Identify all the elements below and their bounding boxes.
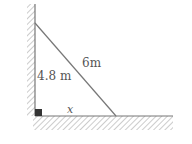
ladder-length-label: 6m xyxy=(82,57,101,69)
ground-hatching xyxy=(33,116,173,130)
diagram-canvas xyxy=(0,0,192,144)
wall-hatching xyxy=(27,4,35,116)
ladder-diagram: 4.8 m 6m x xyxy=(0,0,192,144)
ground-distance-label: x xyxy=(67,104,73,115)
right-angle-marker xyxy=(35,109,42,116)
wall-height-label: 4.8 m xyxy=(37,70,71,82)
